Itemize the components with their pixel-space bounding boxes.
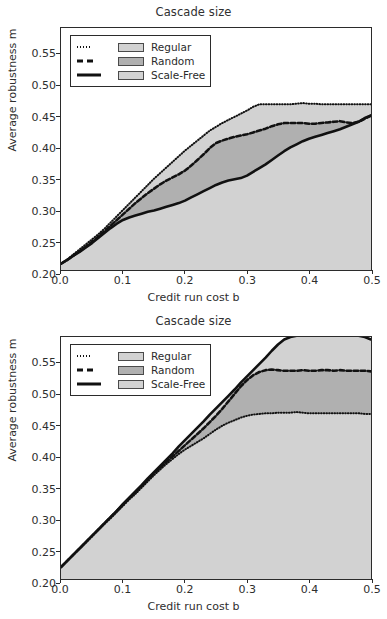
y-tick-label: 0.50 bbox=[4, 388, 56, 401]
y-tick-label: 0.25 bbox=[4, 545, 56, 558]
y-tick-label: 0.45 bbox=[4, 419, 56, 432]
x-tick-label: 0.0 bbox=[51, 583, 69, 596]
x-tick-mark bbox=[60, 270, 61, 274]
legend-line-sample-solid bbox=[76, 69, 110, 81]
x-tick-labels: 0.00.10.20.30.40.5 bbox=[60, 274, 372, 290]
x-tick-mark bbox=[122, 270, 123, 274]
y-tick-label: 0.20 bbox=[4, 577, 56, 590]
x-tick-mark bbox=[372, 270, 373, 274]
legend-item-random[interactable]: Random bbox=[76, 54, 205, 68]
y-tick-label: 0.30 bbox=[4, 514, 56, 527]
legend-item-random[interactable]: Random bbox=[76, 363, 205, 377]
legend-top: RegularRandomScale-Free bbox=[70, 35, 211, 87]
x-tick-mark bbox=[372, 579, 373, 583]
y-tick-label: 0.35 bbox=[4, 173, 56, 186]
legend-line-sample-dashed bbox=[76, 55, 110, 67]
x-tick-label: 0.1 bbox=[114, 583, 132, 596]
x-tick-label: 0.2 bbox=[176, 583, 194, 596]
plot-area: RegularRandomScale-Free bbox=[60, 336, 372, 580]
x-tick-label: 0.3 bbox=[238, 274, 256, 287]
x-tick-mark bbox=[247, 270, 248, 274]
x-tick-mark bbox=[309, 579, 310, 583]
x-tick-labels: 0.00.10.20.30.40.5 bbox=[60, 583, 372, 599]
x-tick-label: 0.4 bbox=[301, 274, 319, 287]
legend-patch-scale-free bbox=[118, 71, 144, 80]
legend-patch-random bbox=[118, 366, 144, 375]
x-tick-mark bbox=[184, 270, 185, 274]
y-tick-label: 0.55 bbox=[4, 356, 56, 369]
y-tick-labels: 0.200.250.300.350.400.450.500.55 bbox=[0, 27, 56, 271]
legend-label: Random bbox=[151, 55, 194, 67]
y-tick-labels: 0.200.250.300.350.400.450.500.55 bbox=[0, 336, 56, 580]
legend-label: Regular bbox=[151, 350, 191, 362]
legend-label: Random bbox=[151, 364, 194, 376]
chart-panel-top: Cascade size Average robustness m 0.200.… bbox=[0, 0, 387, 309]
area-fill-regular bbox=[61, 412, 371, 579]
x-tick-label: 0.2 bbox=[176, 274, 194, 287]
y-tick-label: 0.50 bbox=[4, 79, 56, 92]
x-tick-label: 0.4 bbox=[301, 583, 319, 596]
y-tick-label: 0.20 bbox=[4, 268, 56, 281]
legend-line-sample-solid bbox=[76, 378, 110, 390]
x-axis-label: Credit run cost b bbox=[0, 600, 387, 613]
figure-canvas: Cascade size Average robustness m 0.200.… bbox=[0, 0, 387, 619]
legend-line-sample-dotted bbox=[76, 41, 110, 53]
legend-line-sample-dotted bbox=[76, 350, 110, 362]
legend-label: Scale-Free bbox=[151, 69, 205, 81]
y-tick-label: 0.45 bbox=[4, 110, 56, 123]
x-tick-label: 0.5 bbox=[363, 583, 381, 596]
y-tick-label: 0.55 bbox=[4, 47, 56, 60]
chart-title: Cascade size bbox=[0, 5, 387, 19]
x-tick-mark bbox=[184, 579, 185, 583]
legend-label: Scale-Free bbox=[151, 378, 205, 390]
x-tick-label: 0.1 bbox=[114, 274, 132, 287]
x-axis-label: Credit run cost b bbox=[0, 291, 387, 304]
legend-patch-regular bbox=[118, 352, 144, 361]
legend-line-sample-dashed bbox=[76, 364, 110, 376]
legend-item-scale-free[interactable]: Scale-Free bbox=[76, 68, 205, 82]
chart-title: Cascade size bbox=[0, 314, 387, 328]
legend-item-regular[interactable]: Regular bbox=[76, 349, 205, 363]
y-tick-label: 0.40 bbox=[4, 451, 56, 464]
chart-panel-bottom: Cascade size Average robustness m 0.200.… bbox=[0, 310, 387, 619]
y-tick-label: 0.30 bbox=[4, 205, 56, 218]
legend-patch-scale-free bbox=[118, 380, 144, 389]
x-tick-mark bbox=[247, 579, 248, 583]
y-tick-label: 0.40 bbox=[4, 142, 56, 155]
legend-bottom: RegularRandomScale-Free bbox=[70, 344, 211, 396]
plot-area: RegularRandomScale-Free bbox=[60, 27, 372, 271]
legend-patch-random bbox=[118, 57, 144, 66]
legend-item-scale-free[interactable]: Scale-Free bbox=[76, 377, 205, 391]
x-tick-label: 0.0 bbox=[51, 274, 69, 287]
legend-label: Regular bbox=[151, 41, 191, 53]
y-tick-label: 0.25 bbox=[4, 236, 56, 249]
x-tick-label: 0.5 bbox=[363, 274, 381, 287]
legend-item-regular[interactable]: Regular bbox=[76, 40, 205, 54]
x-tick-mark bbox=[122, 579, 123, 583]
x-tick-mark bbox=[309, 270, 310, 274]
x-tick-mark bbox=[60, 579, 61, 583]
x-tick-label: 0.3 bbox=[238, 583, 256, 596]
legend-patch-regular bbox=[118, 43, 144, 52]
y-tick-label: 0.35 bbox=[4, 482, 56, 495]
